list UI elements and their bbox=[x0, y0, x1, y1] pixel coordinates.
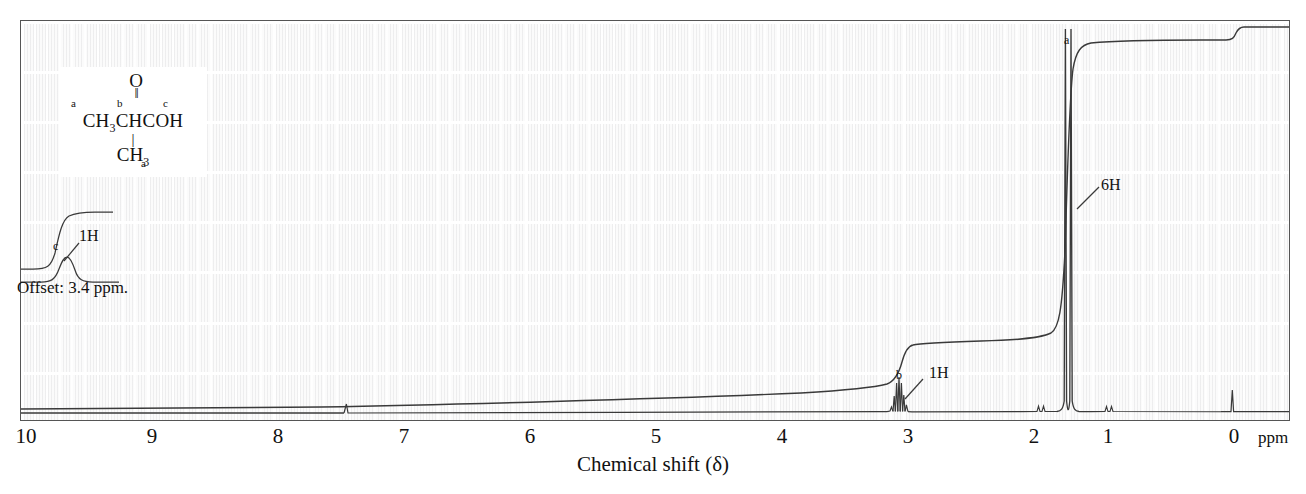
structure-methyl-label: a bbox=[141, 158, 146, 169]
integration-label-6H-a: 6H bbox=[1101, 176, 1121, 194]
peak-b-septet bbox=[887, 377, 1021, 412]
spectrum-trace-svg bbox=[21, 21, 1289, 420]
peak-tms bbox=[1221, 390, 1289, 412]
structure-label-c: c bbox=[163, 98, 168, 109]
peak-letter-a: a bbox=[1064, 33, 1069, 48]
peak-letter-c: c bbox=[53, 239, 58, 254]
integration-curve-offset bbox=[21, 212, 113, 269]
structure-label-b: b bbox=[117, 98, 123, 109]
nmr-spectrum-figure: O ‖ a b c CH3CHCOH | CH3a c 1H b 1H a 6H… bbox=[0, 0, 1306, 494]
tick-6: 6 bbox=[510, 424, 550, 449]
offset-note: Offset: 3.4 ppm. bbox=[17, 278, 128, 298]
x-axis-title: Chemical shift (δ) bbox=[0, 452, 1306, 477]
plot-frame: O ‖ a b c CH3CHCOH | CH3a bbox=[20, 20, 1290, 421]
structure-methyl-text: CH bbox=[117, 144, 143, 165]
leader-line-1H-b bbox=[905, 379, 923, 399]
structure-backbone-part2: CHCOH bbox=[116, 110, 184, 131]
ppm-unit-label: ppm bbox=[1258, 428, 1288, 448]
spectrum-baseline-mid bbox=[621, 412, 887, 413]
structure-label-a: a bbox=[71, 98, 76, 109]
structure-methyl: CH3a bbox=[59, 145, 207, 168]
tick-5: 5 bbox=[636, 424, 676, 449]
integration-curve-main bbox=[21, 27, 1289, 409]
tick-9: 9 bbox=[132, 424, 172, 449]
peak-sideband-right bbox=[1091, 407, 1221, 412]
peak-letter-b: b bbox=[896, 368, 902, 383]
tick-1: 1 bbox=[1088, 424, 1128, 449]
peak-sideband-left bbox=[1021, 406, 1057, 412]
integration-label-1H-c: 1H bbox=[79, 227, 99, 245]
tick-3: 3 bbox=[888, 424, 928, 449]
leader-line-1H-c bbox=[64, 243, 79, 261]
structure-backbone-part1: CH bbox=[83, 110, 110, 131]
leader-line-6H bbox=[1077, 187, 1099, 209]
peak-a-doublet bbox=[1057, 29, 1091, 412]
chemical-structure-inset: O ‖ a b c CH3CHCOH | CH3a bbox=[59, 67, 207, 177]
tick-8: 8 bbox=[258, 424, 298, 449]
tick-7: 7 bbox=[384, 424, 424, 449]
tick-10: 10 bbox=[6, 424, 46, 449]
tick-0: 0 bbox=[1214, 424, 1254, 449]
tick-2: 2 bbox=[1014, 424, 1054, 449]
structure-proton-labels: a b c bbox=[59, 98, 207, 111]
tick-4: 4 bbox=[762, 424, 802, 449]
integration-label-1H-b: 1H bbox=[929, 364, 949, 382]
